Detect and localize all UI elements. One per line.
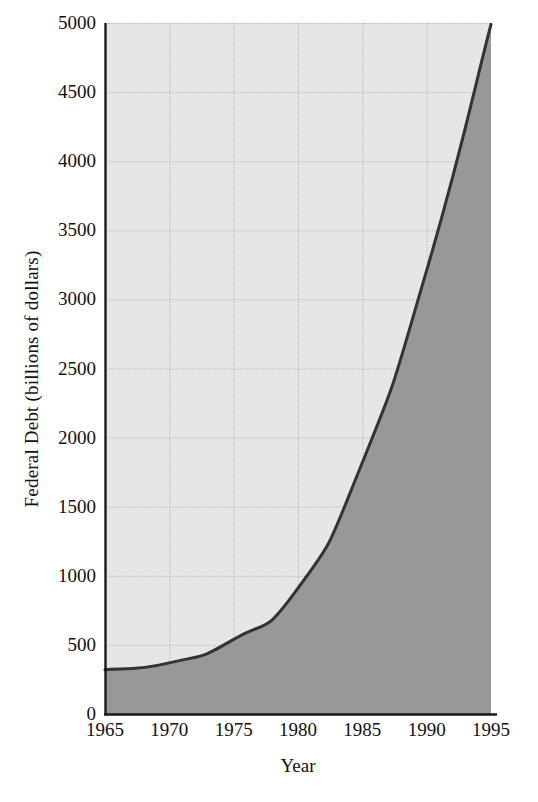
y-tick-label: 5000: [58, 13, 96, 32]
y-tick-label: 500: [68, 635, 97, 654]
chart-figure: 0500100015002000250030003500400045005000…: [0, 0, 538, 802]
y-tick-label: 1000: [58, 566, 96, 585]
y-tick-label: 2000: [58, 428, 96, 447]
x-tick-label: 1965: [70, 719, 140, 741]
y-tick-label: 3500: [58, 220, 96, 239]
y-tick-label: 2500: [58, 359, 96, 378]
y-axis-tick-labels: 0500100015002000250030003500400045005000: [0, 0, 102, 802]
y-tick-label: 4000: [58, 151, 96, 170]
x-axis-tick-labels: 1965197019751980198519901995: [0, 719, 538, 759]
x-axis-title: Year: [105, 755, 491, 777]
x-tick-label: 1985: [327, 719, 397, 741]
x-tick-label: 1980: [263, 719, 333, 741]
x-tick-label: 1975: [199, 719, 269, 741]
y-tick-label: 4500: [58, 82, 96, 101]
y-axis-title: Federal Debt (billions of dollars): [21, 179, 43, 579]
y-tick-label: 1500: [58, 497, 96, 516]
y-tick-label: 3000: [58, 289, 96, 308]
x-tick-label: 1990: [392, 719, 462, 741]
x-tick-label: 1995: [456, 719, 526, 741]
x-tick-label: 1970: [134, 719, 204, 741]
